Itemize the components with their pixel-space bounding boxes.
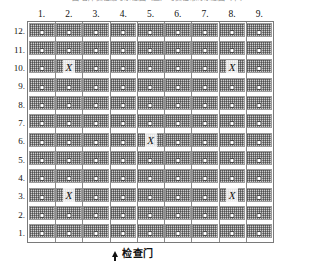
storage-bay[interactable] xyxy=(29,151,55,165)
storage-bay[interactable] xyxy=(110,23,136,37)
storage-bay[interactable] xyxy=(83,96,109,110)
storage-bay[interactable] xyxy=(192,114,218,128)
storage-bay[interactable] xyxy=(110,188,136,202)
storage-bay[interactable] xyxy=(29,59,55,73)
storage-bay[interactable] xyxy=(192,224,218,238)
storage-bay[interactable] xyxy=(246,206,272,220)
storage-bay[interactable] xyxy=(246,23,272,37)
storage-bay[interactable] xyxy=(83,23,109,37)
storage-bay[interactable] xyxy=(137,188,163,202)
storage-bay[interactable] xyxy=(219,188,245,202)
storage-bay[interactable] xyxy=(165,78,191,92)
storage-bay[interactable] xyxy=(165,169,191,183)
storage-bay[interactable] xyxy=(83,78,109,92)
storage-bay[interactable] xyxy=(110,169,136,183)
storage-bay[interactable] xyxy=(246,78,272,92)
storage-bay[interactable] xyxy=(83,169,109,183)
storage-bay[interactable] xyxy=(29,78,55,92)
storage-bay[interactable] xyxy=(192,206,218,220)
storage-bay[interactable] xyxy=(165,114,191,128)
storage-bay[interactable] xyxy=(219,23,245,37)
storage-bay[interactable] xyxy=(219,78,245,92)
storage-bay[interactable] xyxy=(56,78,82,92)
storage-bay[interactable] xyxy=(83,59,109,73)
storage-bay[interactable] xyxy=(246,59,272,73)
storage-bay[interactable] xyxy=(29,188,55,202)
storage-bay[interactable] xyxy=(56,188,82,202)
storage-bay[interactable] xyxy=(165,224,191,238)
storage-bay[interactable] xyxy=(29,96,55,110)
storage-bay[interactable] xyxy=(110,114,136,128)
storage-bay[interactable] xyxy=(29,41,55,55)
storage-bay[interactable] xyxy=(165,96,191,110)
storage-bay[interactable] xyxy=(56,206,82,220)
storage-bay[interactable] xyxy=(246,41,272,55)
storage-bay[interactable] xyxy=(110,41,136,55)
storage-bay[interactable] xyxy=(165,133,191,147)
storage-bay[interactable] xyxy=(29,114,55,128)
storage-bay[interactable] xyxy=(137,169,163,183)
storage-bay[interactable] xyxy=(110,151,136,165)
storage-bay[interactable] xyxy=(110,59,136,73)
storage-bay[interactable] xyxy=(192,169,218,183)
storage-bay[interactable] xyxy=(110,206,136,220)
storage-bay[interactable] xyxy=(137,133,163,147)
storage-bay[interactable] xyxy=(110,96,136,110)
storage-bay[interactable] xyxy=(29,23,55,37)
storage-bay[interactable] xyxy=(83,133,109,147)
storage-bay[interactable] xyxy=(137,23,163,37)
storage-bay[interactable] xyxy=(56,23,82,37)
storage-bay[interactable] xyxy=(137,151,163,165)
storage-bay[interactable] xyxy=(219,206,245,220)
storage-bay[interactable] xyxy=(246,151,272,165)
storage-bay[interactable] xyxy=(192,41,218,55)
storage-bay[interactable] xyxy=(246,96,272,110)
storage-bay[interactable] xyxy=(137,224,163,238)
storage-bay[interactable] xyxy=(192,23,218,37)
storage-bay[interactable] xyxy=(219,96,245,110)
storage-bay[interactable] xyxy=(219,151,245,165)
storage-bay[interactable] xyxy=(219,133,245,147)
storage-bay[interactable] xyxy=(165,188,191,202)
storage-bay[interactable] xyxy=(29,206,55,220)
warehouse-grid[interactable]: XXXXX xyxy=(27,21,274,243)
storage-bay[interactable] xyxy=(137,114,163,128)
storage-bay[interactable] xyxy=(219,59,245,73)
storage-bay[interactable] xyxy=(246,114,272,128)
storage-bay[interactable] xyxy=(246,188,272,202)
storage-bay[interactable] xyxy=(56,151,82,165)
storage-bay[interactable] xyxy=(246,224,272,238)
storage-bay[interactable] xyxy=(56,59,82,73)
storage-bay[interactable] xyxy=(110,224,136,238)
storage-bay[interactable] xyxy=(29,169,55,183)
storage-bay[interactable] xyxy=(137,59,163,73)
storage-bay[interactable] xyxy=(137,206,163,220)
storage-bay[interactable] xyxy=(83,114,109,128)
storage-bay[interactable] xyxy=(83,151,109,165)
storage-bay[interactable] xyxy=(83,206,109,220)
storage-bay[interactable] xyxy=(29,133,55,147)
storage-bay[interactable] xyxy=(192,188,218,202)
storage-bay[interactable] xyxy=(137,41,163,55)
storage-bay[interactable] xyxy=(56,169,82,183)
storage-bay[interactable] xyxy=(192,96,218,110)
storage-bay[interactable] xyxy=(56,96,82,110)
storage-bay[interactable] xyxy=(56,41,82,55)
storage-bay[interactable] xyxy=(192,151,218,165)
storage-bay[interactable] xyxy=(192,133,218,147)
storage-bay[interactable] xyxy=(219,224,245,238)
storage-bay[interactable] xyxy=(83,188,109,202)
storage-bay[interactable] xyxy=(137,78,163,92)
storage-bay[interactable] xyxy=(110,133,136,147)
storage-bay[interactable] xyxy=(110,78,136,92)
storage-bay[interactable] xyxy=(192,59,218,73)
storage-bay[interactable] xyxy=(246,169,272,183)
storage-bay[interactable] xyxy=(56,133,82,147)
storage-bay[interactable] xyxy=(219,41,245,55)
storage-bay[interactable] xyxy=(56,114,82,128)
storage-bay[interactable] xyxy=(83,41,109,55)
storage-bay[interactable] xyxy=(219,169,245,183)
storage-bay[interactable] xyxy=(83,224,109,238)
storage-bay[interactable] xyxy=(192,78,218,92)
storage-bay[interactable] xyxy=(219,114,245,128)
